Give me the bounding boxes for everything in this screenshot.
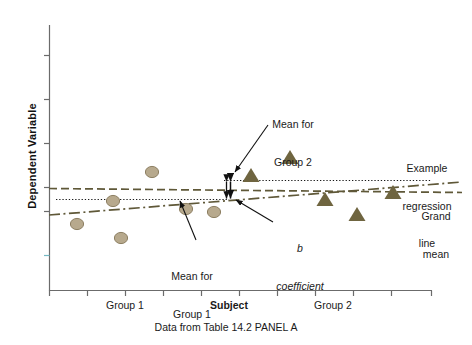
annotation-line: Mean for [248,118,338,131]
x-tick-label-subject: Subject [186,299,272,312]
y-axis-ticks [44,56,50,256]
annotation-line: coefficient [255,280,345,293]
axes [50,25,433,291]
x-tick-label-group-2: Group 2 [290,299,376,312]
data-point-circle [70,218,83,229]
x-axis-caption: Data from Table 14.2 PANEL A [101,321,351,334]
annotation-line: Group 2 [248,156,338,169]
annotation-line: Mean for [147,270,237,283]
b-coefficient-arrows [227,182,231,199]
annotation-line: Grand [404,210,468,223]
annotation-line: mean [404,248,468,261]
annotation-grand-mean: Grand mean [404,185,468,285]
data-point-circle [207,206,220,217]
x-axis-ticks [50,291,432,297]
data-point-circle [145,166,158,177]
annotation-line: Example [384,162,470,175]
figure-panel: Dependent Variable [0,0,472,345]
data-point-triangle [349,207,366,221]
group1-points [70,166,220,243]
annotation-mean-group-2: Mean for Group 2 [248,93,338,193]
x-tick-label-group-1: Group 1 [82,299,168,312]
data-point-circle [114,232,127,243]
data-point-circle [106,195,119,206]
annotation-line: b [255,242,345,255]
